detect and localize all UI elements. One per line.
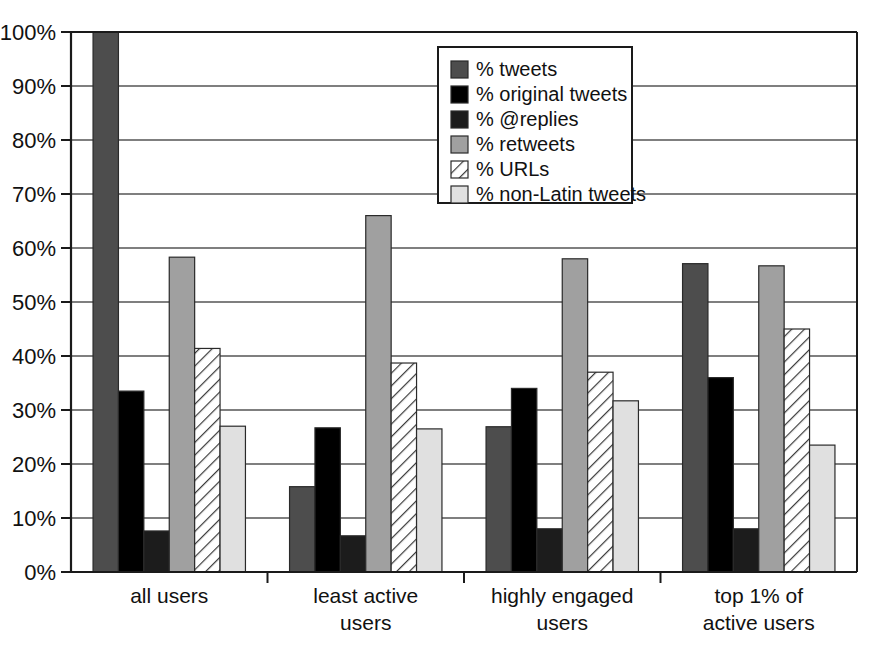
legend-swatch-retweets — [451, 136, 468, 153]
legend-swatch-original-tweets — [451, 86, 468, 103]
bar-original-tweets-highly-engaged-users — [511, 388, 536, 572]
y-axis-tick-label: 100% — [0, 20, 56, 45]
bar-non-latin-tweets-all-users — [220, 426, 245, 572]
y-axis-tick-label: 30% — [12, 398, 56, 423]
bar-urls-top-1-of-active-users — [784, 329, 809, 572]
legend-label: % non-Latin tweets — [476, 183, 646, 205]
y-axis-tick-label: 60% — [12, 236, 56, 261]
legend-swatch-replies — [451, 111, 468, 128]
bar-replies-least-active-users — [340, 536, 365, 572]
x-axis-category-label: highly engaged — [491, 584, 633, 607]
bar-chart: 100%90%80%70%60%50%40%30%20%10%0% all us… — [0, 0, 877, 651]
bar-retweets-top-1-of-active-users — [759, 266, 784, 572]
y-axis-tick-label: 90% — [12, 74, 56, 99]
legend-label: % @replies — [476, 108, 579, 130]
bar-original-tweets-top-1-of-active-users — [708, 378, 733, 572]
x-axis-category-label: top 1% of — [714, 584, 803, 607]
bar-replies-all-users — [144, 531, 169, 572]
y-axis-tick-label: 20% — [12, 452, 56, 477]
bar-tweets-least-active-users — [290, 487, 315, 572]
bar-tweets-top-1-of-active-users — [683, 264, 708, 572]
y-axis-tick-label: 10% — [12, 506, 56, 531]
bar-non-latin-tweets-highly-engaged-users — [613, 401, 638, 572]
chart-canvas: 100%90%80%70%60%50%40%30%20%10%0% all us… — [0, 0, 877, 651]
bar-original-tweets-all-users — [118, 391, 143, 572]
bar-tweets-all-users — [93, 32, 118, 572]
bar-replies-highly-engaged-users — [537, 529, 562, 572]
bar-retweets-highly-engaged-users — [562, 259, 587, 572]
y-axis-tick-label: 40% — [12, 344, 56, 369]
bar-retweets-least-active-users — [366, 216, 391, 572]
y-axis-tick-label: 80% — [12, 128, 56, 153]
bar-tweets-highly-engaged-users — [486, 427, 511, 572]
bar-non-latin-tweets-top-1-of-active-users — [810, 445, 835, 572]
y-axis-labels: 100%90%80%70%60%50%40%30%20%10%0% — [0, 20, 56, 585]
bar-urls-highly-engaged-users — [588, 372, 613, 572]
bar-non-latin-tweets-least-active-users — [417, 429, 442, 572]
legend-swatch-tweets — [451, 61, 468, 78]
bar-retweets-all-users — [169, 257, 194, 572]
x-axis-category-label: active users — [703, 611, 815, 634]
bar-original-tweets-least-active-users — [315, 428, 340, 572]
x-axis-category-label: least active — [313, 584, 418, 607]
x-axis-category-label: all users — [130, 584, 208, 607]
y-axis-tick-label: 70% — [12, 182, 56, 207]
legend-label: % URLs — [476, 158, 549, 180]
legend-label: % retweets — [476, 133, 575, 155]
bar-urls-least-active-users — [391, 363, 416, 572]
y-axis-tick-label: 50% — [12, 290, 56, 315]
x-axis-category-label: users — [340, 611, 391, 634]
bar-replies-top-1-of-active-users — [733, 529, 758, 572]
legend-swatch-non-latin-tweets — [451, 186, 468, 203]
legend-label: % original tweets — [476, 83, 627, 105]
legend-label: % tweets — [476, 58, 557, 80]
chart-legend: % tweets% original tweets% @replies% ret… — [438, 47, 646, 205]
y-axis-tick-label: 0% — [24, 560, 56, 585]
x-axis-category-label: users — [537, 611, 588, 634]
x-axis-labels: all usersleast activeusershighly engaged… — [130, 584, 815, 634]
legend-swatch-urls — [451, 161, 468, 178]
bar-urls-all-users — [195, 348, 220, 572]
